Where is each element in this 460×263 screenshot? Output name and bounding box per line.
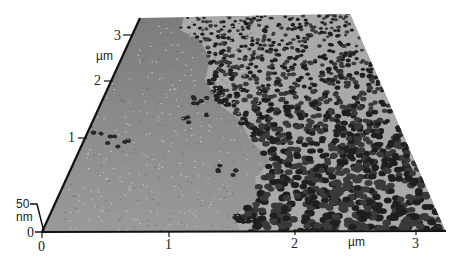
x-axis-line (42, 231, 446, 232)
x-tick-3: 3 (412, 237, 419, 251)
x-tick-0: 0 (38, 240, 45, 254)
y-tick-2: 2 (94, 74, 101, 88)
z-tick-50: 50 (16, 198, 29, 210)
y-tick-3: 3 (114, 29, 121, 43)
z-tick-0: 0 (27, 226, 34, 240)
x-tick-2: 2 (291, 237, 298, 251)
y-tick-1: 1 (68, 131, 75, 145)
x-unit-label: µm (348, 236, 365, 248)
y-unit-label: µm (96, 50, 113, 62)
x-tick-1: 1 (165, 238, 172, 252)
z-unit-label: nm (16, 211, 33, 223)
